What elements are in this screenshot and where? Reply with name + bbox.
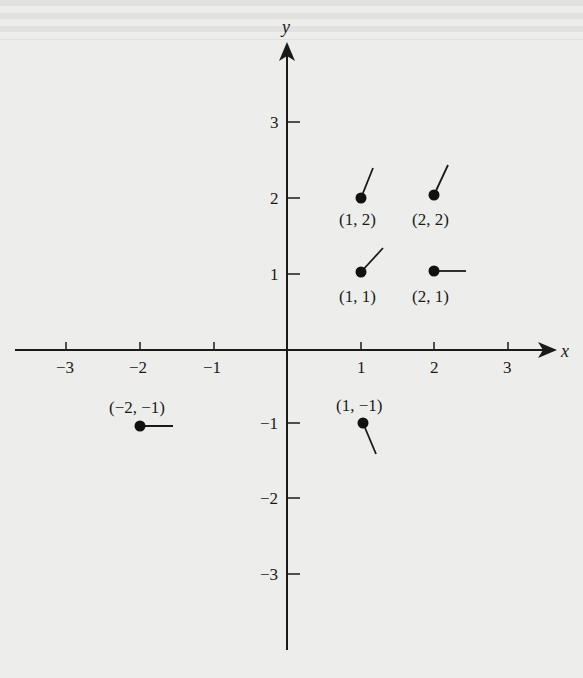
point-2-2: (2, 2) [412,165,449,229]
svg-text:(−2, −1): (−2, −1) [109,398,165,417]
svg-text:1: 1 [270,265,279,284]
dot-icon [429,190,440,201]
point-1-1: (1, 1) [339,248,383,306]
svg-text:2: 2 [270,189,279,208]
svg-text:(1, −1): (1, −1) [336,396,382,415]
dot-icon [356,267,367,278]
dot-icon [135,421,146,432]
svg-text:(2, 2): (2, 2) [412,210,449,229]
svg-text:−2: −2 [129,358,147,377]
point-neg2-neg1: (−2, −1) [109,398,173,432]
svg-text:−1: −1 [203,358,221,377]
point-1-neg1: (1, −1) [336,396,382,454]
y-tick-labels: 3 2 1 −1 −2 −3 [260,113,279,584]
svg-text:3: 3 [270,113,279,132]
y-ticks [287,122,300,574]
svg-text:3: 3 [503,358,512,377]
dot-icon [429,266,440,277]
svg-text:−2: −2 [260,489,278,508]
svg-text:(2, 1): (2, 1) [412,287,449,306]
svg-text:(1, 1): (1, 1) [339,287,376,306]
dot-icon [356,193,367,204]
svg-text:−1: −1 [260,414,278,433]
point-2-1: (2, 1) [412,266,466,307]
svg-text:1: 1 [357,358,366,377]
dot-icon [358,418,369,429]
x-tick-labels: −3 −2 −1 1 2 3 [56,358,512,377]
svg-text:2: 2 [430,358,439,377]
y-axis-label: y [280,17,290,37]
x-axis-label: x [560,341,569,361]
point-1-2: (1, 2) [339,168,376,229]
svg-text:−3: −3 [260,565,278,584]
svg-text:(1, 2): (1, 2) [339,210,376,229]
svg-text:−3: −3 [56,358,74,377]
slope-field-diagram: x y −3 −2 −1 1 2 3 3 2 1 −1 −2 −3 (1, [0,0,583,678]
